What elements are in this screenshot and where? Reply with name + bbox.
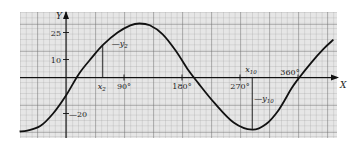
y-tick-label: 10 <box>51 56 61 65</box>
x-tick-label: 270° <box>230 82 249 91</box>
y-axis-label: Y <box>56 11 63 21</box>
y-tick-label: —20 <box>69 110 87 119</box>
x-axis-label: X <box>339 80 347 90</box>
y-tick-label: 25 <box>51 29 61 38</box>
x-tick-label: 90° <box>117 82 131 91</box>
x-tick-label: 180° <box>172 82 191 91</box>
chart-root: YX2510—2090°180°270°360°x2—y2x10—y10 <box>0 0 352 145</box>
sine-curve-chart: YX2510—2090°180°270°360°x2—y2x10—y10 <box>0 0 352 145</box>
x-tick-label: 360° <box>280 68 299 77</box>
